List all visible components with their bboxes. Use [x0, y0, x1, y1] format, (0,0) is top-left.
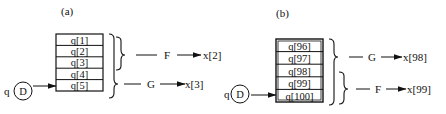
output-label: x[98]	[403, 51, 427, 63]
queue-box-b: q[96] q[97] q[98] q[99] q[100]	[276, 39, 323, 102]
queue-cell: q[2]	[71, 46, 89, 57]
queue-cell: q[1]	[71, 35, 89, 46]
brace-icon	[339, 72, 348, 104]
function-label: G	[147, 78, 155, 90]
delay-node-label-b: D	[236, 89, 244, 100]
output-label: x[99]	[407, 83, 431, 95]
queue-cell: q[100]	[286, 91, 314, 102]
brace-icon	[116, 37, 125, 70]
function-label: F	[164, 49, 170, 61]
diagram-canvas: (a) q D q[1] q[2] q[3] q[4] q[5] F x[2]	[0, 0, 446, 114]
panel-b: (b) q D q[96] q[97] q[98] q[99] q[100] G…	[224, 7, 431, 105]
brace-icon	[109, 34, 118, 98]
queue-cell: q[3]	[71, 57, 89, 68]
queue-cell: q[99]	[288, 78, 311, 89]
queue-cell: q[4]	[71, 69, 89, 80]
function-label: G	[368, 51, 376, 63]
output-label: x[2]	[203, 49, 221, 61]
queue-box-a: q[1] q[2] q[3] q[4] q[5]	[56, 34, 103, 91]
source-prefix-b: q	[224, 88, 230, 100]
queue-cell: q[98]	[288, 66, 311, 77]
queue-cell: q[96]	[288, 41, 311, 52]
queue-cell: q[97]	[288, 53, 311, 64]
function-label: F	[375, 83, 381, 95]
source-prefix-a: q	[4, 85, 10, 97]
delay-node-label-a: D	[19, 86, 27, 97]
panel-label-b: (b)	[276, 7, 289, 20]
queue-cell: q[5]	[71, 80, 89, 91]
panel-a: (a) q D q[1] q[2] q[3] q[4] q[5] F x[2]	[4, 5, 221, 100]
output-label: x[3]	[185, 78, 203, 90]
panel-label-a: (a)	[61, 5, 74, 18]
brace-icon	[329, 39, 338, 105]
